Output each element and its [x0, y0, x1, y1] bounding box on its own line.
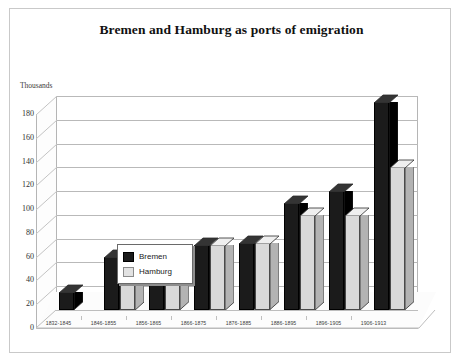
plot-area: Bremen Hamburg — [36, 96, 436, 328]
x-axis-separator — [126, 316, 127, 320]
y-tick-label: 40 — [8, 276, 34, 284]
bar-front-face — [329, 191, 344, 310]
bar-side-face — [225, 245, 234, 310]
bar-top-face — [374, 94, 398, 102]
bar-front-face — [390, 167, 405, 310]
bar-side-face — [135, 284, 144, 310]
y-tick-label: 80 — [8, 229, 34, 237]
bar-series-layer — [36, 96, 436, 328]
y-axis-unit-label: Thousands — [20, 81, 53, 90]
y-tick-label: 160 — [8, 134, 34, 142]
y-tick-label: 100 — [8, 205, 34, 213]
x-axis-separator — [351, 316, 352, 320]
y-tick-label: 0 — [8, 324, 34, 332]
bar-top-face — [210, 237, 234, 245]
bar-hamburg-1896-1905 — [345, 215, 360, 310]
bar-group — [329, 96, 369, 310]
bar-front-face — [194, 245, 209, 310]
bar-bremen-1906-1913 — [374, 102, 389, 310]
y-tick-label: 60 — [8, 253, 34, 261]
bar-hamburg-1886-1895 — [300, 215, 315, 310]
x-axis-tick-labels: 1832-18451846-18551856-18651866-18751876… — [36, 320, 436, 334]
bar-front-face — [120, 284, 135, 310]
x-tick-label: 1886-1895 — [261, 320, 306, 326]
y-axis-tick-labels: 020406080100120140160180 — [0, 96, 34, 328]
bar-top-face — [329, 183, 353, 191]
x-tick-label: 1856-1865 — [126, 320, 171, 326]
x-tick-label: 1846-1855 — [81, 320, 126, 326]
legend-label-hamburg: Hamburg — [139, 267, 172, 276]
bar-hamburg-1846-1855 — [120, 284, 135, 310]
y-tick-label: 140 — [8, 158, 34, 166]
bar-bremen-1886-1895 — [284, 203, 299, 310]
page-title: Bremen and Hamburg as ports of emigratio… — [0, 22, 463, 38]
bar-hamburg-1876-1885 — [255, 243, 270, 310]
x-tick-label: 1896-1905 — [306, 320, 351, 326]
bar-front-face — [165, 280, 180, 310]
y-tick-label: 180 — [8, 110, 34, 118]
bar-front-face — [300, 215, 315, 310]
legend-label-bremen: Bremen — [139, 252, 167, 261]
bar-top-face — [255, 235, 279, 243]
legend-swatch-hamburg — [123, 267, 134, 277]
x-axis-separator — [171, 316, 172, 320]
bar-hamburg-1866-1875 — [210, 245, 225, 310]
bar-front-face — [210, 245, 225, 310]
bar-bremen-1832-1845 — [59, 292, 74, 310]
chart-page: Bremen and Hamburg as ports of emigratio… — [0, 0, 463, 364]
bar-front-face — [239, 243, 254, 310]
bar-front-face — [284, 203, 299, 310]
bar-front-face — [59, 292, 74, 310]
bar-top-face — [390, 159, 414, 167]
x-axis-separator — [261, 316, 262, 320]
x-tick-label: 1866-1875 — [171, 320, 216, 326]
bar-front-face — [374, 102, 389, 310]
y-tick-label: 120 — [8, 181, 34, 189]
bar-front-face — [345, 215, 360, 310]
bar-side-face — [315, 215, 324, 310]
bar-hamburg-1906-1913 — [390, 167, 405, 310]
bar-side-face — [360, 215, 369, 310]
x-tick-label: 1832-1845 — [36, 320, 81, 326]
x-axis-separator — [216, 316, 217, 320]
bar-side-face — [74, 292, 83, 310]
bar-side-face — [270, 243, 279, 310]
bar-hamburg-1856-1865 — [165, 280, 180, 310]
legend-swatch-bremen — [123, 252, 134, 262]
bar-top-face — [345, 207, 369, 215]
bar-side-face — [180, 280, 189, 310]
bar-side-face — [405, 167, 414, 310]
x-axis-separator — [306, 316, 307, 320]
bar-group — [239, 96, 279, 310]
bar-bremen-1876-1885 — [239, 243, 254, 310]
bar-group — [374, 96, 414, 310]
legend-item-hamburg: Hamburg — [123, 264, 187, 279]
x-axis-separator — [81, 316, 82, 320]
bar-group — [59, 96, 99, 310]
legend-item-bremen: Bremen — [123, 249, 187, 264]
x-tick-label: 1876-1885 — [216, 320, 261, 326]
chart-legend: Bremen Hamburg — [117, 244, 193, 284]
bar-group — [284, 96, 324, 310]
bar-top-face — [300, 207, 324, 215]
bar-front-face — [255, 243, 270, 310]
bar-group — [194, 96, 234, 310]
bar-top-face — [59, 284, 83, 292]
bar-bremen-1866-1875 — [194, 245, 209, 310]
bar-bremen-1896-1905 — [329, 191, 344, 310]
y-tick-label: 20 — [8, 300, 34, 308]
bar-top-face — [284, 195, 308, 203]
x-tick-label: 1906-1913 — [351, 320, 396, 326]
